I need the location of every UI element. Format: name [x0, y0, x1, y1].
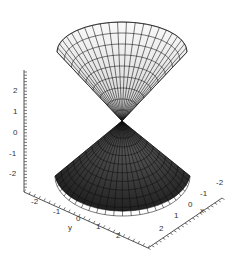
x-tick-label: 0 — [188, 200, 193, 209]
y-axis-label: y — [68, 223, 72, 232]
x-tick-label: 2 — [159, 224, 164, 233]
z-tick-label: 0 — [13, 128, 18, 137]
upper-cone-surface — [57, 22, 187, 121]
x-axis-label: x — [200, 206, 204, 215]
y-tick-label: -2 — [31, 197, 39, 206]
x-tick-label: -2 — [216, 178, 224, 187]
y-tick-label: -1 — [53, 207, 61, 216]
y-tick-label: 0 — [76, 214, 81, 223]
y-tick-label: 2 — [116, 231, 121, 240]
z-tick-label: -2 — [9, 169, 17, 178]
z-axis: 2 1 0 -1 -2 — [9, 70, 27, 192]
z-tick-label: 1 — [13, 107, 18, 116]
z-tick-label: -1 — [9, 149, 17, 158]
double-cone-plot: 2 1 0 -1 -2 -2 -1 0 1 2 y -2 -1 0 1 2 x — [0, 0, 236, 253]
z-tick-label: 2 — [13, 86, 18, 95]
lower-cone-surface — [55, 121, 190, 216]
y-tick-label: 1 — [96, 222, 101, 231]
x-tick-label: -1 — [200, 189, 208, 198]
x-tick-label: 1 — [174, 211, 179, 220]
